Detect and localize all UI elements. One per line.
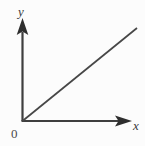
x-axis-label: x [132, 118, 139, 133]
proportional-line [23, 28, 138, 121]
y-axis-label: y [16, 4, 24, 19]
figure-container: y x 0 [0, 0, 145, 146]
origin-label: 0 [11, 126, 18, 141]
coordinate-diagram: y x 0 [0, 0, 145, 146]
